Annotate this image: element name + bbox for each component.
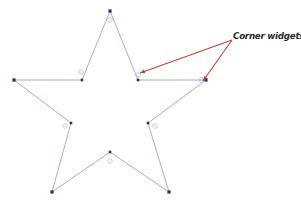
- figure-canvas: — · · · Corner widgets: [0, 0, 301, 215]
- corner-widgets-label: Corner widgets: [233, 30, 301, 42]
- vertex-handle-inner-lower-left[interactable]: [70, 122, 73, 125]
- corner-widget-dot-widget-lower-right: [154, 125, 155, 126]
- leader-to-right-point: [203, 40, 232, 81]
- outer-vertex-handles[interactable]: [12, 9, 207, 193]
- vertex-handle-left-point[interactable]: [12, 78, 15, 81]
- corner-widget-dot-widget-bottom: [109, 160, 110, 161]
- leader-to-inner-corner-arrowhead-icon: [140, 70, 145, 74]
- inner-vertex-handles[interactable]: [70, 79, 150, 154]
- leader-to-inner-corner: [140, 40, 232, 73]
- vertex-handle-bottom-right-point[interactable]: [167, 190, 170, 193]
- corner-widget-dot-widget-right-point: [200, 79, 201, 80]
- vertex-handle-inner-upper-left[interactable]: [81, 79, 84, 82]
- corner-widget-dot-widget-upper-right-inner: [137, 74, 138, 75]
- callout-leader-lines: [140, 40, 232, 81]
- corner-widget-dot-widget-lower-left: [64, 125, 65, 126]
- vertex-handle-inner-upper-right[interactable]: [137, 79, 140, 82]
- star-outline-path[interactable]: [14, 11, 206, 192]
- corner-widget-dot-widget-top: [109, 19, 110, 20]
- corner-widget-dot-widget-upper-left: [80, 71, 81, 72]
- corner-widget-markers[interactable]: [63, 18, 204, 164]
- vertex-handle-bottom-left-point[interactable]: [50, 190, 53, 193]
- vertex-handle-inner-bottom[interactable]: [109, 151, 112, 154]
- vertex-handle-inner-lower-right[interactable]: [147, 122, 150, 125]
- vertex-handle-top-point[interactable]: [108, 9, 111, 12]
- star-shape-group[interactable]: [14, 11, 206, 192]
